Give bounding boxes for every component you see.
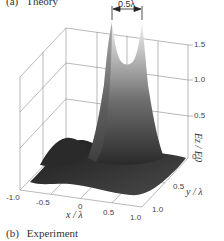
surface-plot (0, 0, 224, 241)
caption-experiment: (b)Experiment (6, 227, 78, 239)
z-tick-1.5: 1.5 (194, 40, 205, 49)
x-tick-0.5: 0.5 (103, 208, 114, 217)
x-axis-label: x / λ (66, 209, 83, 220)
z-tick-1.0: 1.0 (194, 75, 205, 84)
y-tick-0: 0 (192, 152, 196, 161)
peak-separation-label: 0.5λ (118, 0, 135, 9)
y-axis-label: y / λ (186, 186, 203, 197)
y-tick-0.5: 0.5 (173, 182, 184, 191)
x-tick-neg0.5: -0.5 (36, 198, 50, 207)
z-tick-0.5: 0.5 (194, 111, 205, 120)
panel-title: Experiment (27, 227, 78, 239)
y-tick-1.0: 1.0 (152, 205, 163, 214)
x-tick-1.0: 1.0 (130, 213, 141, 222)
surface (30, 22, 186, 195)
x-tick-neg1.0: -1.0 (6, 193, 20, 202)
panel-tag: (b) (6, 227, 19, 239)
